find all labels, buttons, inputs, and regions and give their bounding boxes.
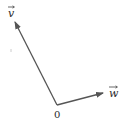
svg-text:w: w <box>109 87 119 100</box>
vector-v-label: v <box>8 6 15 20</box>
origin-label: 0 <box>54 109 60 120</box>
svg-text:v: v <box>8 7 15 20</box>
vector-w-arrow <box>57 93 103 105</box>
vector-diagram: v w 0 <box>0 0 122 125</box>
vector-v-arrow <box>15 22 57 105</box>
vector-w-label: w <box>109 86 119 100</box>
